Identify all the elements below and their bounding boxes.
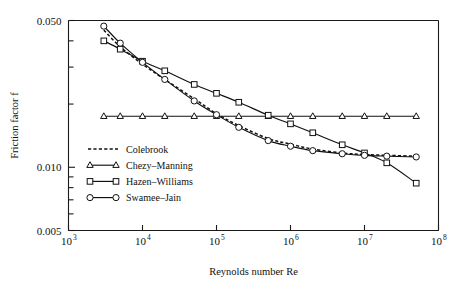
marker-circle (287, 143, 293, 149)
y-axis-title-text: Friction factor f (9, 92, 20, 159)
friction-factor-chart: 1031041051061071080.0500.0100.005 Colebr… (0, 0, 461, 287)
x-tick-label-exponent: 3 (73, 233, 77, 242)
legend-label: Chezy–Manning (126, 160, 193, 171)
x-tick-label-exponent: 6 (295, 233, 299, 242)
marker-circle (139, 59, 145, 65)
marker-circle (413, 154, 419, 160)
marker-square (236, 99, 242, 105)
marker-circle (162, 76, 168, 82)
marker-circle (361, 152, 367, 158)
marker-circle (87, 195, 93, 201)
marker-circle (384, 153, 390, 159)
marker-square (384, 160, 390, 166)
marker-square (117, 46, 123, 52)
marker-circle (339, 151, 345, 157)
marker-circle (236, 124, 242, 130)
x-tick-label-base: 10 (357, 235, 369, 247)
x-tick-label-base: 10 (61, 235, 73, 247)
marker-circle (117, 40, 123, 46)
legend-label: Swamee–Jain (126, 192, 181, 203)
marker-square (101, 38, 107, 44)
marker-square (265, 112, 271, 118)
marker-square (191, 82, 197, 88)
legend-label: Hazen–Williams (126, 176, 193, 187)
marker-square (339, 142, 345, 148)
marker-square (310, 130, 316, 136)
x-tick-label-exponent: 4 (147, 233, 151, 242)
legend-label: Colebrook (126, 144, 168, 155)
marker-square (87, 179, 93, 185)
marker-square (413, 180, 419, 186)
marker-circle (113, 195, 119, 201)
y-tick-label: 0.010 (37, 161, 62, 173)
marker-square (113, 179, 119, 185)
y-axis-title: Friction factor f (9, 92, 20, 159)
y-tick-label: 0.005 (37, 225, 62, 237)
y-tick-label: 0.050 (37, 15, 62, 27)
x-tick-label-base: 10 (283, 235, 295, 247)
x-tick-label-exponent: 8 (443, 233, 447, 242)
marker-circle (310, 148, 316, 154)
x-tick-label-exponent: 5 (221, 233, 225, 242)
marker-circle (191, 98, 197, 104)
x-tick-label-base: 10 (209, 235, 221, 247)
x-axis-title: Reynolds number Re (209, 266, 298, 277)
marker-square (214, 91, 220, 97)
x-tick-label-base: 10 (431, 235, 443, 247)
marker-square (288, 121, 294, 127)
marker-circle (101, 23, 107, 29)
marker-circle (265, 137, 271, 143)
marker-square (162, 68, 168, 74)
figure-container: 1031041051061071080.0500.0100.005 Colebr… (0, 0, 461, 287)
x-tick-label-base: 10 (135, 235, 147, 247)
marker-circle (213, 112, 219, 118)
x-tick-label-exponent: 7 (369, 233, 373, 242)
